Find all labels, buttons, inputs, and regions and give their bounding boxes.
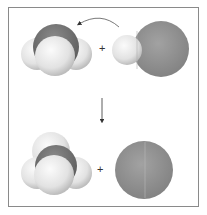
hydrogen-atom: [112, 35, 142, 65]
hydrogen-chloride-molecule: [112, 21, 189, 77]
plus-sign-bottom: +: [97, 164, 103, 175]
plus-sign-top: +: [99, 43, 105, 54]
chloride-ion: [115, 141, 173, 199]
chlorine-atom: [115, 141, 173, 199]
hydrogen-atom: [35, 36, 75, 76]
ammonium-ion: [21, 132, 92, 195]
hydrogen-atom: [34, 155, 74, 195]
ammonia-molecule: [21, 24, 92, 76]
proton-transfer-arrow: [79, 18, 119, 27]
reaction-diagram: [0, 0, 207, 215]
